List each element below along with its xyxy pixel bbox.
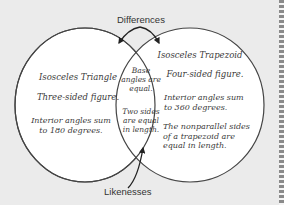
likenesses-label: Likenesses xyxy=(104,186,152,197)
venn-diagram: Differences Likenesses Isosceles Triangl… xyxy=(0,0,284,205)
right-set-title: Isosceles Trapezoid xyxy=(150,50,250,60)
left-fact-1: Three-sided figure. xyxy=(26,92,130,102)
intersection-fact-2: Two sides are equal in length. xyxy=(121,107,161,134)
right-fact-3: The nonparallel sides of a trapezoid are… xyxy=(163,122,253,151)
perforated-edge xyxy=(279,0,284,205)
right-fact-2: Interior angles sum to 360 degrees. xyxy=(164,93,248,112)
left-fact-2: Interior angles sum to 180 degrees. xyxy=(28,116,114,135)
intersection-fact-1: Base angles are equal. xyxy=(121,66,161,93)
right-fact-1: Four-sided figure. xyxy=(160,69,250,79)
differences-label: Differences xyxy=(117,14,165,25)
left-set-title: Isosceles Triangle xyxy=(28,72,128,82)
